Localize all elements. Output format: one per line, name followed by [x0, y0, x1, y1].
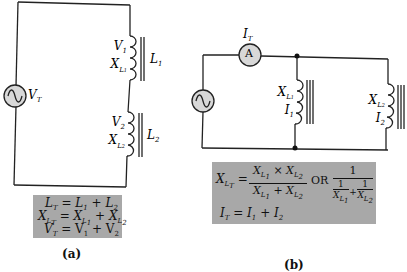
- caption-b: (b): [284, 258, 304, 272]
- ammeter-symbol: A: [245, 47, 253, 60]
- inductor1-name-a: L1: [150, 52, 162, 68]
- ac-source-a: [4, 85, 26, 107]
- junction-top: [295, 54, 300, 59]
- inductor2-labels-a: V2 XL2: [103, 116, 125, 153]
- caption-a: (a): [62, 247, 81, 261]
- fraction-product-over-sum: XL1 × XL2 XL1 + XL2: [249, 164, 307, 201]
- inductor-b1-coil: [295, 80, 303, 124]
- equation-xlt-lhs: XLT =: [216, 172, 248, 191]
- inductor1-labels-b: XL1 I1: [270, 86, 294, 123]
- inductor1-labels-a: V1 XL1: [105, 40, 127, 77]
- equation-vt: VT = V1 + V2: [44, 222, 119, 238]
- source-label-a: VT: [28, 88, 41, 104]
- equation-box-a: LT = L1 + L2 XLT = XL1 + XL2 VT = V1 + V…: [33, 195, 122, 238]
- inductor-l1-coil: [130, 36, 136, 80]
- junction-bottom: [293, 146, 298, 151]
- ac-source-b: [192, 90, 214, 112]
- equation-box-b: XLT = XL1 × XL2 XL1 + XL2 OR 1 1XL1 + 1X…: [212, 162, 376, 224]
- inductor-b2-coil: [386, 84, 394, 128]
- inductor-l2-coil: [127, 112, 134, 156]
- inductor2-name-a: L2: [147, 128, 159, 144]
- ammeter-current-label: IT: [243, 27, 252, 43]
- inductor2-labels-b: XL2 I2: [361, 94, 385, 131]
- or-text: OR: [311, 174, 328, 187]
- fraction-reciprocal: 1 1XL1 + 1XL2: [333, 164, 373, 205]
- equation-it: IT = I1 + I2: [220, 206, 283, 222]
